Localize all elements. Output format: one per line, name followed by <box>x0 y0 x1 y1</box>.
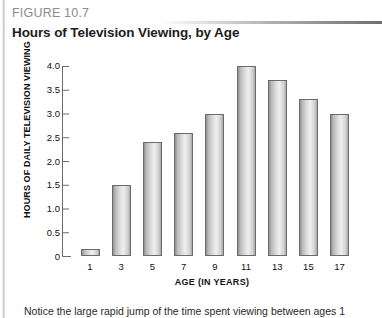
figure-title: Hours of Television Viewing, by Age <box>12 24 380 41</box>
y-tick-label: 2.0 <box>20 157 60 167</box>
x-tick-label: 3 <box>106 261 136 272</box>
y-tick-label: 1.0 <box>20 204 60 214</box>
bar-age-11 <box>237 66 256 256</box>
bar-age-17 <box>330 114 349 257</box>
bar-age-5 <box>143 142 162 256</box>
figure-caption: Notice the large rapid jump of the time … <box>24 305 364 318</box>
left-edge-rule <box>2 0 5 318</box>
y-tick-label: 2.5 <box>20 133 60 143</box>
x-tick-label: 15 <box>293 261 323 272</box>
x-tick-label: 7 <box>169 261 199 272</box>
x-tick-label: 5 <box>137 261 167 272</box>
y-tick-label: 4.0 <box>20 61 60 71</box>
x-tick-label: 13 <box>262 261 292 272</box>
figure-number-label: FIGURE 10.7 <box>12 6 380 21</box>
figure-header: FIGURE 10.7 Hours of Television Viewing,… <box>12 6 380 41</box>
bar-age-7 <box>174 133 193 257</box>
x-tick-label: 17 <box>325 261 355 272</box>
plot-region: 4.0 3.5 3.0 2.5 2.0 1.5 1.0 0.5 0 1 3 5 … <box>62 58 362 290</box>
x-axis-title: AGE (IN YEARS) <box>62 277 362 287</box>
x-tick-label: 11 <box>231 261 261 272</box>
y-tick-label: 0.5 <box>20 228 60 238</box>
y-tick-label: 3.0 <box>20 109 60 119</box>
y-tick-label: 0 <box>20 252 60 262</box>
bar-age-15 <box>299 99 318 256</box>
bar-age-1 <box>81 249 100 256</box>
x-tick-label: 9 <box>200 261 230 272</box>
y-tick-label: 1.5 <box>20 180 60 190</box>
bar-age-13 <box>268 80 287 256</box>
bar-chart: HOURS OF DAILY TELEVISION VIEWING 4.0 3.… <box>10 55 372 290</box>
bar-age-9 <box>205 114 224 257</box>
y-tick-label: 3.5 <box>20 85 60 95</box>
header-divider-rule <box>159 21 382 24</box>
x-tick-label: 1 <box>75 261 105 272</box>
bar-age-3 <box>112 185 131 256</box>
